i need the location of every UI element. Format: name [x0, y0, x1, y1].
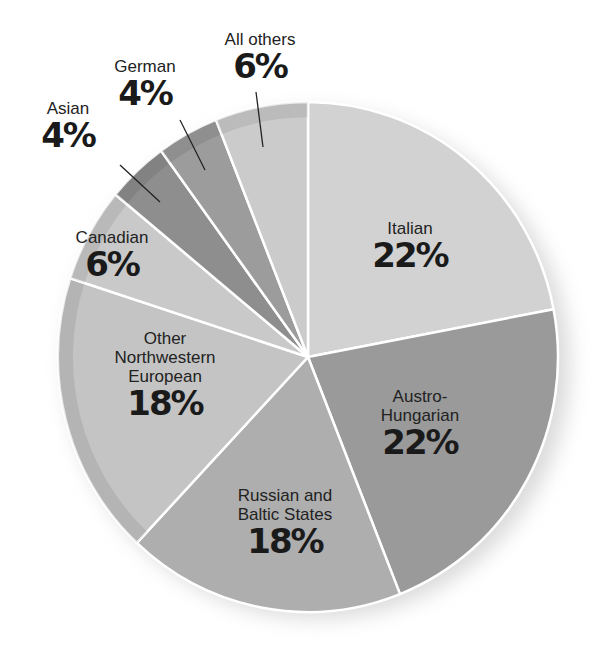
label-name-line: Russian and: [210, 486, 360, 505]
slice-label-austro-hungarian: Austro- Hungarian 22%: [355, 387, 485, 461]
label-percent: 22%: [355, 425, 485, 461]
label-percent: 4%: [100, 76, 190, 112]
slice-label-canadian: Canadian 6%: [62, 228, 162, 283]
label-percent: 18%: [210, 524, 360, 560]
label-name-line: Northwestern: [90, 348, 240, 367]
label-percent: 6%: [62, 247, 162, 283]
label-name-line: Austro-: [355, 387, 485, 406]
slice-label-russian-and-baltic-states: Russian and Baltic States 18%: [210, 486, 360, 560]
label-percent: 4%: [28, 118, 108, 154]
slice-label-german: German 4%: [100, 57, 190, 112]
slice-label-italian: Italian 22%: [360, 219, 460, 274]
label-percent: 6%: [210, 49, 310, 85]
slice-label-asian: Asian 4%: [28, 99, 108, 154]
label-percent: 22%: [360, 238, 460, 274]
slice-label-other-northwestern-european: Other Northwestern European 18%: [90, 329, 240, 422]
slice-label-all-others: All others 6%: [210, 30, 310, 85]
label-name-line: Other: [90, 329, 240, 348]
label-percent: 18%: [90, 386, 240, 422]
